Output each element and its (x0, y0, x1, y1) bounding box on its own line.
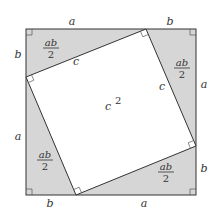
label-bottom-a: a (141, 197, 148, 210)
svg-text:ab: ab (39, 149, 51, 160)
label-right-b: b (200, 162, 207, 175)
svg-text:c: c (105, 100, 111, 113)
label-right-a: a (201, 78, 208, 91)
label-hypotenuse-top-right: c (159, 80, 165, 93)
svg-text:ab: ab (176, 57, 188, 68)
svg-text:ab: ab (45, 37, 57, 48)
pythagorean-diagram: a b b a a b b a c c ab 2 ab 2 ab 2 ab 2 … (0, 0, 219, 222)
svg-text:2: 2 (48, 49, 54, 60)
label-hypotenuse-top-left: c (73, 55, 79, 68)
label-bottom-b: b (46, 197, 53, 210)
svg-text:2: 2 (163, 173, 169, 184)
label-top-a: a (69, 15, 76, 28)
label-left-a: a (15, 130, 22, 143)
svg-text:2: 2 (115, 95, 121, 106)
svg-text:ab: ab (160, 161, 172, 172)
label-top-b: b (166, 15, 173, 28)
label-left-b: b (14, 48, 21, 61)
svg-text:2: 2 (42, 161, 48, 172)
svg-text:2: 2 (179, 69, 185, 80)
